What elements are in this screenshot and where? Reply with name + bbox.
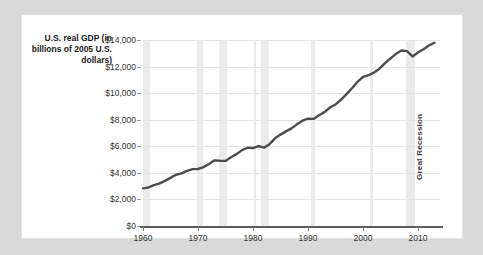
x-axis-tick-label: 1990 — [299, 233, 318, 243]
x-axis-tick-label: 1980 — [244, 233, 263, 243]
x-axis-line — [140, 226, 443, 228]
x-axis-tick — [198, 226, 199, 231]
y-axis-tick-label: $14,000 — [105, 35, 136, 45]
x-axis-tick — [308, 226, 309, 231]
gdp-line-series — [143, 40, 440, 226]
y-axis-tick — [137, 146, 141, 147]
y-axis-tick-label: $4,000 — [110, 168, 136, 178]
y-axis-title: U.S. real GDP (in billions of 2005 U.S. … — [16, 33, 112, 67]
y-axis-tick — [137, 40, 141, 41]
y-axis-tick — [137, 199, 141, 200]
y-axis-tick — [137, 93, 141, 94]
x-axis-tick-label: 1970 — [189, 233, 208, 243]
plot-area: $0$2,000$4,000$6,000$8,000$10,000$12,000… — [143, 40, 440, 226]
x-axis-tick — [363, 226, 364, 231]
y-axis-tick — [137, 173, 141, 174]
y-axis-tick-label: $6,000 — [110, 141, 136, 151]
y-axis-tick — [137, 120, 141, 121]
x-axis-tick-label: 2010 — [409, 233, 428, 243]
y-axis-tick-label: $8,000 — [110, 115, 136, 125]
x-axis-tick-label: 1960 — [134, 233, 153, 243]
y-axis-tick — [137, 67, 141, 68]
y-axis-tick-label: $2,000 — [110, 194, 136, 204]
x-axis-tick-label: 2000 — [354, 233, 373, 243]
chart-card: U.S. real GDP (in billions of 2005 U.S. … — [22, 15, 462, 238]
x-axis-tick — [253, 226, 254, 231]
y-axis-tick-label: $0 — [127, 221, 136, 231]
y-axis-tick-label: $12,000 — [105, 62, 136, 72]
y-axis-tick-label: $10,000 — [105, 88, 136, 98]
x-axis-tick — [143, 226, 144, 231]
x-axis-tick — [418, 226, 419, 231]
great-recession-annotation: Great Recession — [415, 114, 424, 180]
